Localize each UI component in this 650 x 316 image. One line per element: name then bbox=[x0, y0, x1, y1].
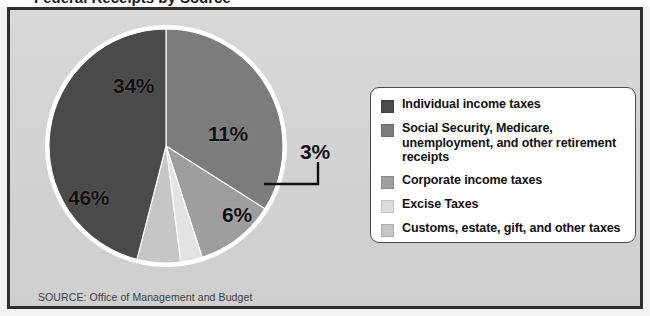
legend-swatch-icon bbox=[381, 200, 394, 213]
legend-item-label: Customs, estate, gift, and other taxes bbox=[402, 221, 620, 236]
chart-figure: Federal Receipts by Source 34% 11% 3% 6%… bbox=[0, 0, 650, 316]
chart-title-clipped: Federal Receipts by Source bbox=[0, 0, 650, 7]
legend-item-label: Social Security, Medicare, unemployment,… bbox=[402, 121, 625, 165]
legend-item-label: Corporate income taxes bbox=[402, 173, 542, 188]
source-note: SOURCE: Office of Management and Budget bbox=[38, 291, 252, 303]
legend-item-label: Excise Taxes bbox=[402, 197, 478, 212]
legend-swatch-icon bbox=[381, 124, 394, 137]
pie-slices bbox=[49, 29, 283, 263]
chart-legend: Individual income taxes Social Security,… bbox=[370, 87, 636, 243]
legend-item-customs-estate-gift[interactable]: Customs, estate, gift, and other taxes bbox=[381, 221, 625, 237]
legend-swatch-icon bbox=[381, 100, 394, 113]
legend-swatch-icon bbox=[381, 176, 394, 189]
chart-title-text: Federal Receipts by Source bbox=[34, 0, 231, 6]
legend-item-corporate-income-taxes[interactable]: Corporate income taxes bbox=[381, 173, 625, 189]
legend-item-label: Individual income taxes bbox=[402, 97, 541, 112]
callout-leader-line bbox=[262, 160, 332, 194]
pie-label-34: 34% bbox=[113, 74, 154, 98]
pie-svg bbox=[41, 21, 291, 271]
legend-swatch-icon bbox=[381, 224, 394, 237]
pie-label-46: 46% bbox=[68, 186, 109, 210]
pie-label-11: 11% bbox=[208, 122, 248, 146]
legend-item-social-security[interactable]: Social Security, Medicare, unemployment,… bbox=[381, 121, 625, 165]
pie-chart bbox=[41, 21, 291, 271]
chart-frame: 34% 11% 3% 6% 46% Individual income taxe… bbox=[7, 7, 643, 309]
legend-item-individual-income-taxes[interactable]: Individual income taxes bbox=[381, 97, 625, 113]
legend-item-excise-taxes[interactable]: Excise Taxes bbox=[381, 197, 625, 213]
pie-label-6: 6% bbox=[222, 203, 252, 227]
